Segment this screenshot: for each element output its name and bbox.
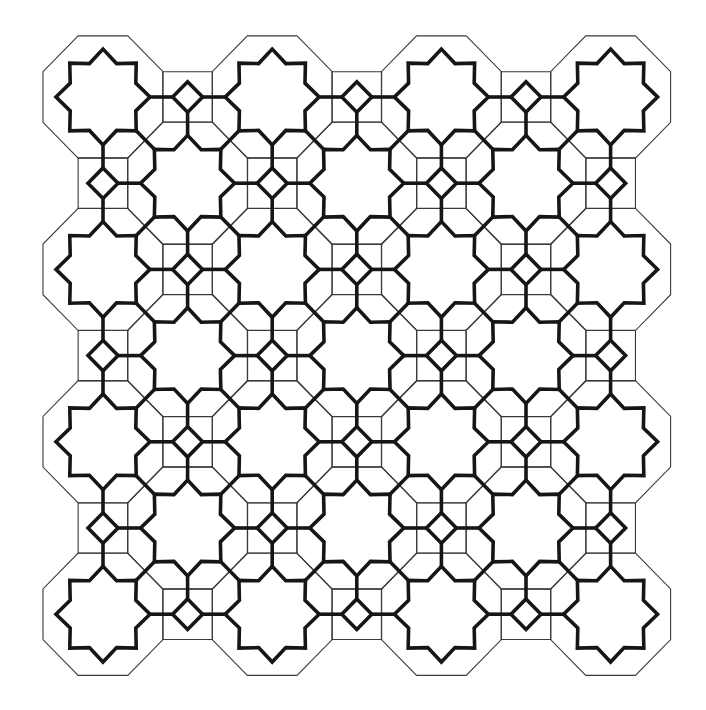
eight-point-star bbox=[394, 566, 488, 662]
diamond bbox=[511, 599, 541, 630]
eight-point-star bbox=[141, 480, 235, 576]
eight-point-star bbox=[56, 49, 150, 145]
diamond bbox=[426, 340, 456, 371]
eight-point-star bbox=[310, 308, 404, 404]
star-interlace bbox=[56, 49, 658, 662]
eight-point-star bbox=[394, 394, 488, 490]
diamond bbox=[88, 340, 118, 371]
diamond bbox=[426, 168, 456, 199]
diamond bbox=[511, 427, 541, 458]
diamond bbox=[342, 82, 372, 113]
eight-point-star bbox=[56, 566, 150, 662]
eight-point-star bbox=[479, 308, 573, 404]
eight-point-star bbox=[141, 308, 235, 404]
eight-point-star bbox=[141, 135, 235, 231]
eight-point-star bbox=[394, 222, 488, 318]
eight-point-star bbox=[56, 394, 150, 490]
diamond bbox=[596, 340, 626, 371]
diamond bbox=[257, 168, 287, 199]
eight-point-star bbox=[56, 222, 150, 318]
diamond bbox=[511, 254, 541, 285]
diamond bbox=[596, 168, 626, 199]
eight-point-star bbox=[564, 222, 658, 318]
diamond bbox=[511, 82, 541, 113]
diamond bbox=[257, 513, 287, 544]
eight-point-star bbox=[479, 135, 573, 231]
diamond bbox=[173, 599, 203, 630]
eight-point-star bbox=[310, 135, 404, 231]
diamond bbox=[426, 513, 456, 544]
diamond bbox=[342, 254, 372, 285]
eight-point-star bbox=[225, 566, 319, 662]
diamond bbox=[173, 82, 203, 113]
star-tiling-pattern bbox=[0, 0, 706, 710]
eight-point-star bbox=[310, 480, 404, 576]
diamond bbox=[342, 427, 372, 458]
eight-point-star bbox=[479, 480, 573, 576]
eight-point-star bbox=[225, 394, 319, 490]
diamond bbox=[257, 340, 287, 371]
eight-point-star bbox=[225, 49, 319, 145]
eight-point-star bbox=[564, 394, 658, 490]
eight-point-star bbox=[225, 222, 319, 318]
diamond bbox=[88, 168, 118, 199]
diamond bbox=[342, 599, 372, 630]
diamond bbox=[596, 513, 626, 544]
eight-point-star bbox=[564, 566, 658, 662]
eight-point-star bbox=[394, 49, 488, 145]
diamond bbox=[173, 427, 203, 458]
diamond bbox=[173, 254, 203, 285]
diamond bbox=[88, 513, 118, 544]
eight-point-star bbox=[564, 49, 658, 145]
